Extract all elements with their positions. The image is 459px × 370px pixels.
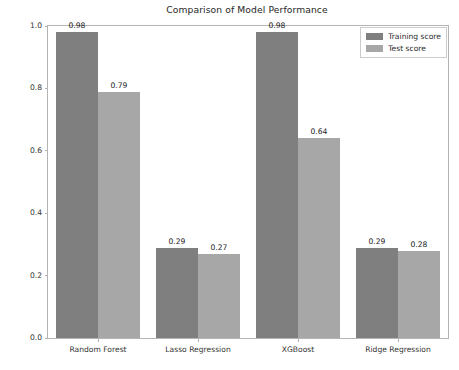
legend-item[interactable]: Training score	[366, 32, 441, 41]
bar-value-label: 0.28	[411, 240, 428, 249]
legend-label: Test score	[388, 44, 426, 53]
x-tick-label: Ridge Regression	[338, 345, 458, 354]
bar: 0.28	[398, 251, 440, 338]
x-tick-mark	[98, 338, 99, 342]
y-tick-label: 1.0	[30, 21, 42, 30]
bar: 0.29	[356, 248, 398, 338]
x-tick-mark	[198, 338, 199, 342]
figure-canvas: Comparison of Model Performance R_square…	[0, 0, 459, 370]
y-tick-label: 0.6	[30, 146, 42, 155]
y-tick-mark	[45, 150, 49, 151]
x-tick-mark	[398, 338, 399, 342]
y-tick-label: 0.4	[30, 208, 42, 217]
legend-swatch-icon	[366, 33, 383, 40]
bar: 0.98	[256, 32, 298, 338]
x-tick-mark	[298, 338, 299, 342]
legend-swatch-icon	[366, 45, 383, 52]
bar-value-label: 0.29	[169, 237, 186, 246]
bar-value-label: 0.27	[211, 243, 228, 252]
y-tick-mark	[45, 213, 49, 214]
y-tick-mark	[45, 88, 49, 89]
bar: 0.79	[98, 92, 140, 338]
y-tick-label: 0.0	[30, 333, 42, 342]
chart-title: Comparison of Model Performance	[47, 4, 447, 15]
bar-value-label: 0.64	[311, 127, 328, 136]
bar: 0.27	[198, 254, 240, 338]
bar-value-label: 0.98	[269, 21, 286, 30]
legend: Training scoreTest score	[360, 27, 447, 58]
legend-label: Training score	[388, 32, 441, 41]
y-tick-label: 0.2	[30, 271, 42, 280]
bar: 0.64	[298, 138, 340, 338]
bar-value-label: 0.79	[111, 81, 128, 90]
y-tick-mark	[45, 275, 49, 276]
bar-value-label: 0.98	[69, 21, 86, 30]
legend-item[interactable]: Test score	[366, 44, 441, 53]
y-tick-label: 0.8	[30, 83, 42, 92]
y-tick-mark	[45, 26, 49, 27]
bar: 0.98	[56, 32, 98, 338]
bar-value-label: 0.29	[369, 237, 386, 246]
bar: 0.29	[156, 248, 198, 338]
plot-area: R_square values 0.00.20.40.60.81.0 Rando…	[47, 25, 449, 339]
y-tick-mark	[45, 338, 49, 339]
